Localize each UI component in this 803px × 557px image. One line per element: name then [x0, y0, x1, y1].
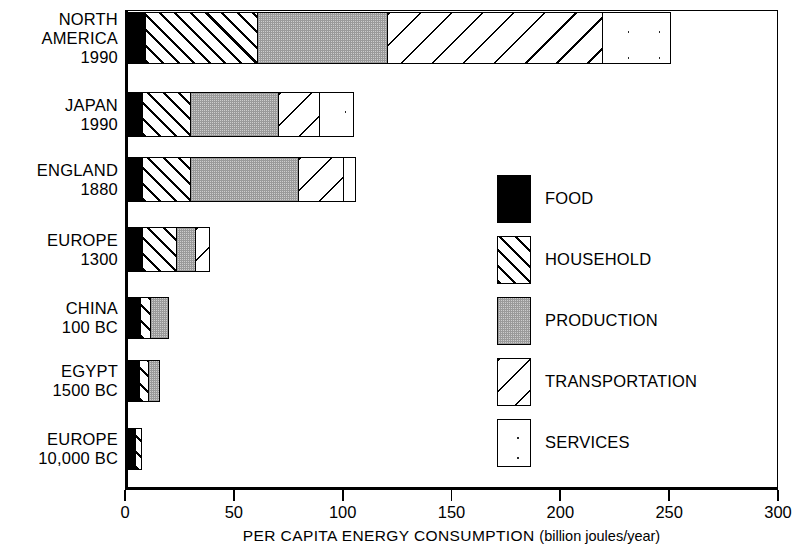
- category-label-line1: CHINA: [62, 299, 118, 318]
- x-tick: [451, 490, 453, 501]
- bar-segment-transportation: [279, 93, 320, 136]
- category-label-line2: 10,000 BC: [38, 449, 118, 468]
- bar-segment-household: [141, 298, 151, 338]
- legend-swatch-production-icon: [497, 297, 531, 345]
- bar-japan-1990: [125, 92, 354, 137]
- x-tick: [233, 490, 235, 501]
- category-label-europe-10000bc: EUROPE 10,000 BC: [38, 430, 118, 468]
- x-axis-title-text: PER CAPITA ENERGY CONSUMPTION: [243, 527, 535, 544]
- category-label-japan: JAPAN 1990: [65, 96, 118, 134]
- x-tick-label: 300: [764, 503, 792, 522]
- legend-label-services: SERVICES: [545, 433, 630, 452]
- category-label-line2: 100 BC: [62, 318, 118, 337]
- x-tick-label: 0: [120, 503, 129, 522]
- x-axis-title-unit: (billion joules/year): [539, 528, 660, 544]
- x-axis-title: PER CAPITA ENERGY CONSUMPTION (billion j…: [125, 527, 778, 545]
- category-label-line3: 1990: [41, 48, 118, 67]
- x-tick: [559, 490, 561, 501]
- legend-row-household: HOUSEHOLD: [497, 229, 697, 290]
- bar-segment-household: [143, 93, 190, 136]
- category-label-line2: 1990: [65, 115, 118, 134]
- bar-egypt-1500-bc: [125, 360, 160, 402]
- bar-segment-production: [149, 361, 159, 401]
- legend-row-food: FOOD: [497, 168, 697, 229]
- bar-segment-transportation: [299, 158, 344, 201]
- x-tick-label: 150: [438, 503, 466, 522]
- category-label-line1: EGYPT: [52, 362, 118, 381]
- category-label-line2: 1300: [47, 250, 118, 269]
- legend-swatch-food-icon: [497, 175, 531, 223]
- bar-north-america-1990: [125, 12, 671, 64]
- stacked-bar-chart: NORTH AMERICA 1990 JAPAN 1990 ENGLAND 18…: [0, 0, 803, 557]
- category-label-england: ENGLAND 1880: [37, 161, 118, 199]
- category-label-north-america: NORTH AMERICA 1990: [41, 10, 118, 67]
- bar-china-100-bc: [125, 297, 169, 339]
- x-tick-label: 250: [655, 503, 683, 522]
- legend-label-transportation: TRANSPORTATION: [545, 372, 697, 391]
- bar-segment-production: [258, 13, 388, 63]
- category-label-line1: EUROPE: [47, 231, 118, 250]
- bar-segment-food: [126, 13, 146, 63]
- bar-segment-household: [143, 228, 177, 271]
- bar-segment-food: [126, 361, 140, 401]
- category-label-line1: EUROPE: [38, 430, 118, 449]
- bar-segment-services: [603, 13, 670, 63]
- bar-segment-production: [191, 158, 299, 201]
- bar-segment-food: [126, 228, 143, 271]
- legend-label-production: PRODUCTION: [545, 311, 658, 330]
- x-tick: [342, 490, 344, 501]
- bar-segment-services: [320, 93, 352, 136]
- bar-europe-10-000-bc: [125, 428, 142, 470]
- x-tick-label: 200: [547, 503, 575, 522]
- legend-row-transportation: TRANSPORTATION: [497, 351, 697, 412]
- x-tick-label: 100: [329, 503, 357, 522]
- legend: FOOD HOUSEHOLD PRODUCTION TRANSPORTATION…: [497, 168, 697, 473]
- bar-segment-food: [126, 298, 141, 338]
- category-label-line2: 1880: [37, 180, 118, 199]
- bar-segment-household: [136, 429, 142, 469]
- bar-segment-household: [140, 361, 148, 401]
- bar-segment-services: [344, 158, 355, 201]
- x-tick: [668, 490, 670, 501]
- category-label-egypt: EGYPT 1500 BC: [52, 362, 118, 400]
- category-label-line1: JAPAN: [65, 96, 118, 115]
- category-label-line1: NORTH: [41, 10, 118, 29]
- bar-europe-1300: [125, 227, 210, 272]
- legend-swatch-household-icon: [497, 236, 531, 284]
- category-label-line2: AMERICA: [41, 29, 118, 48]
- bar-segment-household: [143, 158, 190, 201]
- bar-segment-food: [126, 158, 143, 201]
- legend-label-food: FOOD: [545, 189, 593, 208]
- category-label-line1: ENGLAND: [37, 161, 118, 180]
- bar-segment-production: [191, 93, 279, 136]
- category-label-china: CHINA 100 BC: [62, 299, 118, 337]
- bar-segment-production: [177, 228, 196, 271]
- category-label-line2: 1500 BC: [52, 381, 118, 400]
- x-tick: [777, 490, 779, 501]
- bar-segment-food: [126, 429, 136, 469]
- bar-segment-transportation: [196, 228, 209, 271]
- legend-swatch-transportation-icon: [497, 358, 531, 406]
- legend-label-household: HOUSEHOLD: [545, 250, 651, 269]
- category-label-europe-1300: EUROPE 1300: [47, 231, 118, 269]
- bar-england-1880: [125, 157, 356, 202]
- x-tick: [124, 490, 126, 501]
- bar-segment-transportation: [388, 13, 603, 63]
- bar-segment-food: [126, 93, 143, 136]
- legend-row-production: PRODUCTION: [497, 290, 697, 351]
- legend-swatch-services-icon: [497, 419, 531, 467]
- bar-segment-production: [151, 298, 168, 338]
- legend-row-services: SERVICES: [497, 412, 697, 473]
- bar-segment-household: [146, 13, 259, 63]
- x-tick-label: 50: [225, 503, 243, 522]
